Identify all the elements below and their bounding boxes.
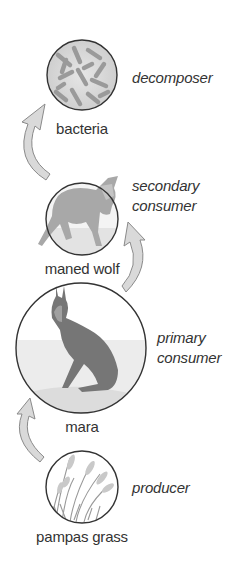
organism-label-pampas-grass: pampas grass [27, 528, 137, 545]
arrow-grass-to-mara [17, 398, 44, 462]
arrow-wolf-to-bacteria [22, 104, 50, 180]
role-line: primary [157, 328, 221, 348]
role-label-decomposer: decomposer [132, 68, 213, 88]
mara-image [10, 283, 160, 420]
role-label-secondary-consumer: secondary consumer [132, 176, 199, 216]
organism-label-bacteria: bacteria [42, 120, 122, 137]
organism-label-mara: mara [42, 418, 122, 435]
organism-label-maned-wolf: maned wolf [37, 260, 127, 277]
role-line: decomposer [132, 68, 213, 88]
role-label-primary-consumer: primary consumer [157, 328, 221, 368]
bacteria-image [47, 40, 117, 110]
role-line: producer [132, 478, 190, 498]
arrow-mara-to-wolf [122, 222, 145, 292]
role-line: secondary [132, 176, 199, 196]
role-label-producer: producer [132, 478, 190, 498]
maned-wolf-image [38, 176, 130, 258]
pampas-grass-image [46, 451, 118, 523]
role-line: consumer [157, 348, 221, 368]
role-line: consumer [132, 196, 199, 216]
